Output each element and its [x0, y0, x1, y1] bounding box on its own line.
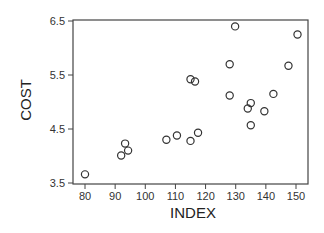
y-axis: 3.54.55.56.5: [50, 15, 73, 189]
data-point-marker: [261, 108, 268, 115]
data-points: [81, 23, 301, 178]
x-tick-label: 130: [227, 190, 245, 202]
y-tick-label: 5.5: [50, 69, 65, 81]
x-tick-label: 150: [287, 190, 305, 202]
data-point-marker: [226, 92, 233, 99]
data-point-marker: [81, 171, 88, 178]
x-tick-label: 80: [79, 190, 91, 202]
data-point-marker: [191, 78, 198, 85]
data-point-marker: [187, 137, 194, 144]
y-axis-title: COST: [17, 79, 34, 121]
y-tick-label: 3.5: [50, 177, 65, 189]
x-axis-title: INDEX: [170, 204, 216, 221]
data-point-marker: [118, 152, 125, 159]
data-point-marker: [270, 90, 277, 97]
x-tick-label: 110: [167, 190, 185, 202]
x-tick-label: 90: [109, 190, 121, 202]
x-axis: 8090100110120130140150: [79, 184, 305, 202]
x-tick-label: 100: [136, 190, 154, 202]
plot-frame: [73, 20, 308, 184]
data-point-marker: [226, 61, 233, 68]
data-point-marker: [187, 76, 194, 83]
x-tick-label: 140: [257, 190, 275, 202]
y-tick-label: 4.5: [50, 123, 65, 135]
data-point-marker: [247, 122, 254, 129]
scatter-chart: 3.54.55.56.5 8090100110120130140150 INDE…: [0, 0, 324, 233]
x-tick-label: 120: [196, 190, 214, 202]
data-point-marker: [125, 147, 132, 154]
data-point-marker: [173, 132, 180, 139]
data-point-marker: [285, 62, 292, 69]
data-point-marker: [121, 140, 128, 147]
y-tick-label: 6.5: [50, 15, 65, 27]
plot-border: [73, 20, 308, 184]
data-point-marker: [232, 23, 239, 30]
data-point-marker: [163, 136, 170, 143]
data-point-marker: [294, 31, 301, 38]
data-point-marker: [194, 129, 201, 136]
